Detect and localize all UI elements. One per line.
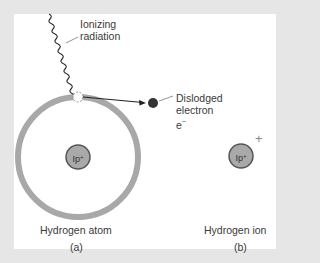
positive-charge-icon: + [255,132,263,145]
arrowhead-icon [139,100,146,106]
ion-nucleus-label: Ip+ [229,151,253,163]
atom-caption: Hydrogen atom [40,224,112,236]
radiation-leader-line [66,37,78,43]
dislodged-electron [148,98,158,108]
ion-caption: Hydrogen ion [204,224,266,236]
radiation-label: Ionizing radiation [80,18,120,42]
electron-label: Dislodged electron e− [176,92,223,131]
panel-b-label: (b) [234,241,247,253]
vacated-electron-position [73,92,83,102]
panel-a-label: (a) [70,241,83,253]
radiation-wave-icon [49,14,75,97]
electron-leader-line [159,96,173,101]
atom-nucleus-label: Ip+ [66,152,90,164]
